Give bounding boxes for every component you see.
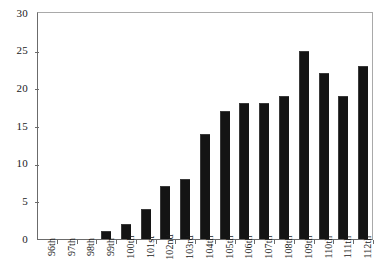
y-axis-tick-label: 0 [22,234,28,245]
x-axis-tick-label-text: 110th [324,236,334,259]
x-axis-tick-mark [254,240,255,244]
bar-slot [136,13,156,239]
y-axis-tick-labels: 051015202530 [0,0,34,277]
x-axis-tick-mark [195,240,196,244]
bar[interactable] [279,96,289,239]
x-axis-tick-mark [353,240,354,244]
x-axis-tick-label-text: 98th [86,238,96,256]
bar-slot [96,13,116,239]
bar-slot [156,13,176,239]
bar[interactable] [338,96,348,239]
x-axis-tick-label-text: 112th [363,236,373,259]
x-axis-tick-label: 97th [57,246,77,277]
bar-slot [274,13,294,239]
x-axis-tick-label-text: 106th [244,235,254,258]
x-axis-tick-label: 109th [294,246,314,277]
x-axis-tick-mark [373,240,374,244]
x-axis-tick-label: 105th [215,246,235,277]
bar[interactable] [200,134,210,239]
x-axis-tick-label: 108th [274,246,294,277]
x-axis-tick-label-text: 97th [67,238,77,256]
x-axis-tick-label-text: 100th [126,235,136,258]
bar-chart: 051015202530 96th97th98th99th100th101st1… [0,0,387,277]
bar-slot [175,13,195,239]
bar[interactable] [180,179,190,239]
bar-slot [116,13,136,239]
bar[interactable] [239,103,249,239]
x-axis-tick-label-text: 101st [146,236,156,258]
y-axis-tick-label: 20 [17,83,28,94]
x-axis-tick-label: 101st [136,246,156,277]
bar[interactable] [141,209,151,239]
x-axis-tick-mark [96,240,97,244]
x-axis-tick-label-text: 99th [106,238,116,256]
bar-slot [235,13,255,239]
x-axis-tick-label: 107th [254,246,274,277]
y-axis-tick-label: 15 [17,121,28,132]
x-axis-tick-label: 100th [116,246,136,277]
bar-slot [77,13,97,239]
bar[interactable] [319,73,329,239]
bar-slot [195,13,215,239]
x-axis-tick-label: 96th [37,246,57,277]
bar-slot [294,13,314,239]
bar-series [37,12,373,240]
bar-slot [353,13,373,239]
bar[interactable] [259,103,269,239]
x-axis-tick-label-text: 109th [304,235,314,258]
bar-slot [57,13,77,239]
y-axis-tick-label: 25 [17,45,28,56]
bar-slot [314,13,334,239]
y-axis-tick-label: 5 [22,196,28,207]
x-axis-tick-label: 98th [77,246,97,277]
x-axis-tick-label-text: 103rd [185,235,195,259]
x-axis-tick-mark [215,240,216,244]
x-axis-tick-mark [175,240,176,244]
bar[interactable] [160,186,170,239]
bar-slot [37,13,57,239]
bar-slot [333,13,353,239]
x-axis-tick-labels: 96th97th98th99th100th101st102nd103rd104t… [37,246,373,277]
x-axis-tick-label: 110th [314,246,334,277]
bar[interactable] [358,66,368,239]
x-axis-tick-label-text: 102nd [165,234,175,260]
x-axis-tick-label-text: 104th [205,235,215,258]
x-axis-tick-label-text: 111th [343,236,353,259]
x-axis-tick-label: 103rd [175,246,195,277]
x-axis-tick-mark [294,240,295,244]
x-axis-tick-label-text: 108th [284,235,294,258]
x-axis-tick-label: 102nd [156,246,176,277]
x-axis-tick-label: 106th [235,246,255,277]
bar[interactable] [299,51,309,239]
x-axis-tick-label-text: 105th [225,235,235,258]
x-axis-tick-mark [116,240,117,244]
bar[interactable] [220,111,230,239]
x-axis-tick-mark [274,240,275,244]
x-axis-tick-label: 104th [195,246,215,277]
bar-slot [254,13,274,239]
y-axis-tick-label: 30 [17,8,28,19]
bar-slot [215,13,235,239]
y-axis-tick-label: 10 [17,158,28,169]
x-axis-tick-label: 112th [353,246,373,277]
x-axis-tick-label-text: 96th [47,238,57,256]
x-axis-tick-label: 111th [333,246,353,277]
x-axis-tick-label-text: 107th [264,235,274,258]
x-axis-tick-label: 99th [96,246,116,277]
